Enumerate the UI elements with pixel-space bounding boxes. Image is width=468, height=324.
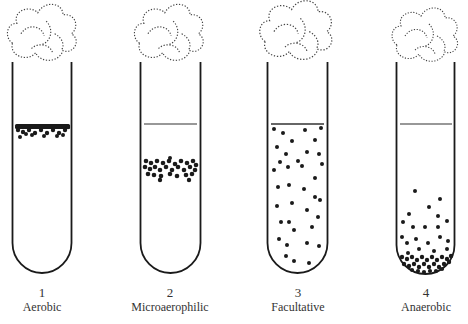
tube-3-number: 3 [238,286,358,300]
tube-3-facultative [260,1,332,273]
tube-1-label: Aerobic [0,300,102,314]
tube-3-caption: 3 Facultative [238,286,358,314]
tube-4-number: 4 [366,286,468,300]
tubes-diagram [0,0,468,324]
tube-2-microaerophilic [134,4,203,273]
tube-1-aerobic [7,4,76,273]
tube-4-anaerobic [392,8,458,274]
tube-2-label: Microaerophilic [110,300,230,314]
tube-2-number: 2 [110,286,230,300]
tube-2-caption: 2 Microaerophilic [110,286,230,314]
tube-1-caption: 1 Aerobic [0,286,102,314]
tube-4-caption: 4 Anaerobic [366,286,468,314]
tube-3-label: Facultative [238,300,358,314]
tube-4-label: Anaerobic [366,300,468,314]
tube-1-number: 1 [0,286,102,300]
